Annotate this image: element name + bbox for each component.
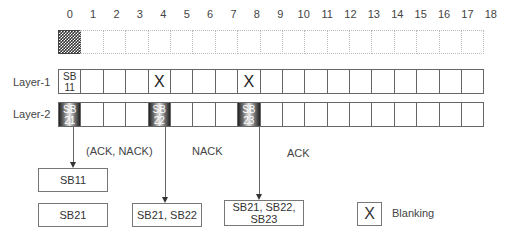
- sb11-cell: SB 11: [58, 69, 81, 94]
- slot-cell: [416, 102, 439, 127]
- slot-cell: [371, 30, 394, 54]
- feedback-nack: NACK: [192, 145, 223, 157]
- slot-cell: [282, 69, 305, 94]
- slot-cell: [394, 30, 417, 54]
- slot-index: 14: [386, 8, 409, 20]
- slot-cell: [282, 102, 305, 127]
- slot-cell: [416, 69, 439, 94]
- slot-cell: [170, 69, 193, 94]
- buffer-label: SB21, SB22: [137, 209, 197, 221]
- slot-index: 10: [292, 8, 315, 20]
- slot-cell: [215, 102, 238, 127]
- slot-index: 2: [105, 8, 128, 20]
- slot-cell: [148, 30, 171, 54]
- slot-cell: [260, 30, 283, 54]
- layer-2-label: Layer-2: [13, 108, 50, 120]
- layer-2-row: SB 21 SB 22 SB 23: [58, 102, 483, 127]
- legend-blanking-box: X: [357, 202, 382, 226]
- top-slot-row: [58, 30, 483, 54]
- slot-index: 18: [479, 8, 502, 20]
- slot-cell: [282, 30, 305, 54]
- patterned-cell: [58, 30, 81, 54]
- slot-cell: [371, 69, 394, 94]
- cell-label: SB: [59, 72, 80, 82]
- feedback-ack: ACK: [287, 147, 310, 159]
- slot-cell: [237, 30, 260, 54]
- slot-cell: [461, 69, 484, 94]
- slot-index: 11: [315, 8, 338, 20]
- slot-cell: [215, 30, 238, 54]
- buffer-label: SB21, SB22,: [233, 201, 296, 213]
- cell-label: SB: [59, 105, 80, 115]
- slot-cell: [170, 30, 193, 54]
- cell-label: 11: [59, 83, 80, 93]
- layer-1-label: Layer-1: [13, 76, 50, 88]
- buffer-label: SB23: [251, 213, 278, 225]
- slot-cell: [439, 30, 462, 54]
- slot-cell: [371, 102, 394, 127]
- slot-cell: [80, 30, 103, 54]
- slot-cell: [461, 30, 484, 54]
- slot-index: 5: [175, 8, 198, 20]
- sb22-cell: SB 22: [148, 102, 171, 127]
- sb21-cell: SB 21: [58, 102, 81, 127]
- slot-index: 3: [128, 8, 151, 20]
- slot-cell: [260, 69, 283, 94]
- slot-index: 1: [81, 8, 104, 20]
- slot-index: 12: [339, 8, 362, 20]
- slot-cell: [416, 30, 439, 54]
- slot-cell: [349, 102, 372, 127]
- slot-cell: [80, 69, 103, 94]
- slot-index: 15: [409, 8, 432, 20]
- layer-1-row: SB 11 X X: [58, 69, 483, 94]
- slot-cell: [125, 69, 148, 94]
- slot-cell: [125, 102, 148, 127]
- slot-index: 8: [245, 8, 268, 20]
- slot-cell: [260, 102, 283, 127]
- buffer-box-sb21-sb22: SB21, SB22: [132, 203, 202, 227]
- blanking-x-icon: X: [238, 73, 259, 91]
- arrow-sb22: [165, 127, 166, 198]
- legend-blanking-label: Blanking: [392, 207, 434, 219]
- slot-cell: [327, 69, 350, 94]
- slot-index: 7: [222, 8, 245, 20]
- slot-cell: [192, 69, 215, 94]
- slot-cell: [304, 69, 327, 94]
- buffer-box-sb11: SB11: [38, 168, 108, 192]
- slot-cell: [103, 69, 126, 94]
- slot-cell: [103, 102, 126, 127]
- slot-cell: [349, 69, 372, 94]
- cell-label: SB: [238, 105, 259, 115]
- slot-cell: [192, 102, 215, 127]
- slot-cell: [170, 102, 193, 127]
- arrow-sb21: [73, 127, 74, 163]
- cell-label: SB: [149, 105, 170, 115]
- slot-cell: [349, 30, 372, 54]
- buffer-box-sb21: SB21: [38, 203, 108, 227]
- buffer-box-sb21-sb22-sb23: SB21, SB22, SB23: [224, 200, 304, 226]
- slot-cell: [461, 102, 484, 127]
- slot-cell: [327, 30, 350, 54]
- buffer-label: SB21: [60, 209, 87, 221]
- slot-index: 0: [58, 8, 81, 20]
- slot-cell: [80, 102, 103, 127]
- slot-index: 16: [432, 8, 455, 20]
- slot-index: 6: [198, 8, 221, 20]
- slot-cell: [327, 102, 350, 127]
- slot-cell: [192, 30, 215, 54]
- blanking-x-icon: X: [364, 208, 375, 220]
- slot-cell: [394, 102, 417, 127]
- feedback-ack-nack: (ACK, NACK): [86, 145, 153, 157]
- arrow-sb23: [259, 127, 260, 195]
- slot-index: 9: [269, 8, 292, 20]
- slot-cell: [215, 69, 238, 94]
- slot-cell: [394, 69, 417, 94]
- slot-cell: [125, 30, 148, 54]
- blanking-x-icon: X: [149, 73, 170, 91]
- blanking-cell: X: [148, 69, 171, 94]
- slot-index: 4: [152, 8, 175, 20]
- buffer-label: SB11: [60, 174, 86, 186]
- slot-cell: [439, 102, 462, 127]
- sb23-cell: SB 23: [237, 102, 260, 127]
- slot-cell: [304, 102, 327, 127]
